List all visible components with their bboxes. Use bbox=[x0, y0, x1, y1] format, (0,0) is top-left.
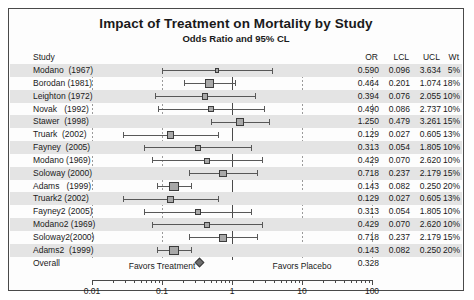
effect-size-marker bbox=[167, 131, 174, 138]
row-study-label: Adams (1999) bbox=[33, 181, 91, 191]
row-lcl-value: 0.082 bbox=[376, 181, 410, 191]
column-header-lcl: LCL bbox=[375, 52, 409, 62]
row-or-value: 0.313 bbox=[345, 206, 379, 216]
row-lcl-value: 0.054 bbox=[376, 142, 410, 152]
row-wt-value: 10% bbox=[426, 91, 460, 101]
forest-row: Borodan (1981)0.4640.2011.07418% bbox=[10, 77, 462, 90]
row-study-label: Leighton (1972) bbox=[33, 91, 93, 101]
tick-minor bbox=[221, 280, 222, 283]
ci-cap-lower bbox=[123, 132, 124, 138]
row-or-value: 0.394 bbox=[345, 91, 379, 101]
tick-minor bbox=[323, 280, 324, 283]
row-study-label: Truark (2002) bbox=[33, 129, 87, 139]
effect-size-marker bbox=[204, 222, 210, 228]
column-header-wt: Wt bbox=[425, 52, 459, 62]
ci-cap-lower bbox=[157, 247, 158, 253]
tick-minor bbox=[344, 280, 345, 283]
row-study-label: Adams2 (1999) bbox=[33, 245, 93, 255]
effect-size-marker bbox=[219, 234, 227, 242]
ci-cap-upper bbox=[262, 157, 263, 163]
forest-row: Adams2 (1999)0.1430.0820.25020% bbox=[10, 244, 462, 257]
ci-cap-upper bbox=[257, 170, 258, 176]
tick-minor bbox=[141, 280, 142, 283]
forest-row: Fayney2 (2005)0.3130.0541.80510% bbox=[10, 205, 462, 218]
row-or-value: 0.429 bbox=[345, 155, 379, 165]
row-wt-value: 10% bbox=[426, 142, 460, 152]
row-or-value: 0.464 bbox=[345, 78, 379, 88]
tick-minor bbox=[299, 280, 300, 283]
tick-minor bbox=[274, 280, 275, 283]
row-or-value: 0.129 bbox=[345, 129, 379, 139]
ci-cap-lower bbox=[189, 170, 190, 176]
row-or-value: 0.143 bbox=[345, 245, 379, 255]
tick-minor bbox=[361, 280, 362, 283]
tick-minor bbox=[291, 280, 292, 283]
forest-row: Modano (1967)0.5900.0963.6345% bbox=[10, 64, 462, 77]
tick-minor bbox=[159, 280, 160, 283]
ci-cap-lower bbox=[211, 119, 212, 125]
ci-cap-upper bbox=[269, 119, 270, 125]
ci-cap-upper bbox=[251, 145, 252, 151]
row-lcl-value: 0.201 bbox=[376, 78, 410, 88]
effect-size-marker bbox=[169, 182, 178, 191]
chart-subtitle: Odds Ratio and 95% CL bbox=[9, 33, 463, 44]
row-lcl-value: 0.027 bbox=[376, 193, 410, 203]
row-wt-value: 10% bbox=[426, 155, 460, 165]
tick-minor bbox=[286, 280, 287, 283]
ci-cap-lower bbox=[144, 145, 145, 151]
tick-minor bbox=[155, 280, 156, 283]
forest-row: Modano2 (1969)0.4290.0702.62010% bbox=[10, 218, 462, 231]
favors-placebo-label: Favors Placebo bbox=[232, 261, 372, 271]
row-study-label: Stawer (1998) bbox=[33, 116, 89, 126]
row-wt-value: 10% bbox=[426, 206, 460, 216]
ci-cap-upper bbox=[264, 106, 265, 112]
ci-cap-upper bbox=[235, 80, 236, 86]
row-study-label: Modano2 (1969) bbox=[33, 219, 95, 229]
tick-minor bbox=[295, 280, 296, 283]
tick-minor bbox=[204, 280, 205, 283]
effect-size-marker bbox=[205, 79, 214, 88]
tick-minor bbox=[211, 280, 212, 283]
forest-row: Truark (2002)0.1290.0270.60513% bbox=[10, 128, 462, 141]
row-study-label: Fayney (2005) bbox=[33, 142, 90, 152]
row-wt-value: 5% bbox=[426, 65, 460, 75]
tick-major bbox=[302, 280, 303, 285]
ci-cap-lower bbox=[189, 234, 190, 240]
row-wt-value: 20% bbox=[426, 181, 460, 191]
row-lcl-value: 0.086 bbox=[376, 104, 410, 114]
row-lcl-value: 0.096 bbox=[376, 65, 410, 75]
x-tick-label: 100 bbox=[352, 286, 392, 296]
tick-major bbox=[232, 280, 233, 285]
row-study-label: Modano (1969) bbox=[33, 155, 91, 165]
ci-cap-lower bbox=[144, 209, 145, 215]
tick-minor bbox=[134, 280, 135, 283]
column-header-study: Study bbox=[33, 52, 55, 62]
effect-size-marker bbox=[195, 145, 201, 151]
effect-size-marker bbox=[167, 196, 174, 203]
ci-cap-lower bbox=[158, 106, 159, 112]
tick-minor bbox=[216, 280, 217, 283]
forest-row: Truark2 (2002)0.1290.0270.60513% bbox=[10, 192, 462, 205]
row-study-label: Soloway2(2000) bbox=[33, 232, 94, 242]
row-or-value: 0.429 bbox=[345, 219, 379, 229]
tick-minor bbox=[183, 280, 184, 283]
row-study-label: Fayney2 (2005) bbox=[33, 206, 93, 216]
row-study-label: Soloway (2000) bbox=[33, 168, 92, 178]
row-study-label: Overall bbox=[33, 258, 60, 268]
ci-cap-lower bbox=[152, 157, 153, 163]
ci-cap-upper bbox=[262, 222, 263, 228]
row-or-value: 0.143 bbox=[345, 181, 379, 191]
forest-row: Fayney (2005)0.3130.0541.80510% bbox=[10, 141, 462, 154]
effect-size-marker bbox=[195, 209, 201, 215]
forest-row: Novak (1992)0.4900.0862.73710% bbox=[10, 103, 462, 116]
row-study-label: Truark2 (2002) bbox=[33, 193, 89, 203]
forest-row: Leighton (1972)0.3940.0762.05510% bbox=[10, 90, 462, 103]
row-lcl-value: 0.237 bbox=[376, 168, 410, 178]
tick-major bbox=[372, 280, 373, 285]
tick-minor bbox=[151, 280, 152, 283]
ci-cap-upper bbox=[251, 209, 252, 215]
effect-size-marker bbox=[215, 68, 220, 73]
tick-minor bbox=[125, 280, 126, 283]
row-or-value: 0.490 bbox=[345, 104, 379, 114]
tick-minor bbox=[265, 280, 266, 283]
